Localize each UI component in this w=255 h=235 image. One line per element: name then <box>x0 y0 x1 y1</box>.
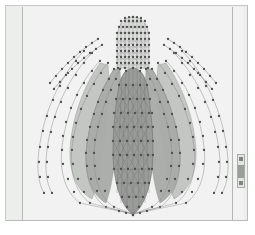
right-divider-line <box>232 7 233 221</box>
left-divider-line <box>22 7 23 221</box>
model-canvas[interactable] <box>22 7 244 221</box>
scroll-up-arrow-icon[interactable] <box>239 157 243 161</box>
left-gutter-panel <box>6 7 22 221</box>
vertical-scrollbar[interactable] <box>237 154 245 188</box>
scrollbar-thumb[interactable] <box>238 165 244 178</box>
scroll-down-arrow-icon[interactable] <box>239 181 243 185</box>
viewport-frame <box>5 5 248 221</box>
mesh-model-graphic <box>22 7 244 221</box>
application-window <box>0 0 255 235</box>
